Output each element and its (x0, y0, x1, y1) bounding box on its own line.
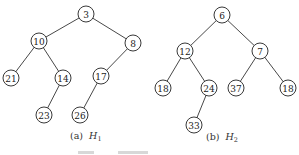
subfigure-caption: (a) H1 (70, 130, 102, 143)
tree-node: 7 (252, 43, 268, 59)
tree-node: 21 (3, 70, 19, 86)
tree-node: 33 (186, 117, 202, 133)
tree-node: 24 (201, 80, 217, 96)
tree-node: 14 (55, 70, 71, 86)
tree-node: 23 (36, 107, 52, 123)
tree-node: 37 (228, 80, 244, 96)
faint-caption-remnant (78, 151, 94, 154)
node-label: 12 (179, 47, 190, 57)
tree-node: 18 (280, 80, 296, 96)
tree-node: 6 (214, 7, 230, 23)
node-label: 10 (33, 37, 45, 47)
heap-diagram: 3108211417232661271824371833 (a) H1(b) H… (0, 0, 299, 155)
tree-node: 17 (93, 68, 109, 84)
faint-caption-remnant (118, 151, 148, 154)
tree-edges (11, 14, 288, 125)
node-label: 21 (5, 74, 16, 84)
tree-node: 26 (72, 107, 88, 123)
node-label: 7 (257, 47, 263, 57)
tree-nodes: 3108211417232661271824371833 (3, 6, 296, 133)
node-label: 26 (74, 111, 86, 121)
node-label: 14 (57, 74, 69, 84)
node-label: 6 (219, 11, 225, 21)
tree-node: 3 (78, 6, 94, 22)
node-label: 18 (157, 84, 169, 94)
node-label: 23 (38, 111, 50, 121)
tree-node: 10 (31, 33, 47, 49)
tree-node: 12 (177, 43, 193, 59)
subfigure-captions: (a) H1(b) H2 (70, 130, 238, 144)
node-label: 37 (230, 84, 242, 94)
node-label: 18 (282, 84, 294, 94)
node-label: 17 (95, 72, 107, 82)
tree-node: 18 (155, 80, 171, 96)
node-label: 24 (203, 84, 215, 94)
node-label: 3 (83, 10, 89, 20)
node-label: 8 (130, 39, 136, 49)
node-label: 33 (188, 121, 200, 131)
tree-node: 8 (125, 35, 141, 51)
subfigure-caption: (b) H2 (206, 131, 238, 144)
